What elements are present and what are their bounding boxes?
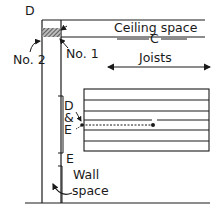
label-e-bottom: E bbox=[66, 153, 74, 166]
drill-end-dot bbox=[151, 123, 155, 127]
label-ceiling-marker-c: C bbox=[150, 33, 159, 46]
no2-arrow bbox=[30, 41, 40, 52]
e-arrow bbox=[76, 126, 81, 129]
d-arrow bbox=[76, 112, 81, 121]
label-no1: No. 1 bbox=[66, 48, 99, 61]
label-wall: Wall bbox=[73, 169, 99, 182]
no1-arrow-upper bbox=[61, 26, 67, 30]
label-no2: No. 2 bbox=[13, 54, 46, 67]
hatched-top-plate bbox=[43, 28, 61, 37]
label-e: E bbox=[64, 124, 72, 137]
label-corner-d: D bbox=[25, 5, 35, 18]
label-space: space bbox=[72, 185, 109, 198]
label-joists: Joists bbox=[139, 52, 172, 65]
